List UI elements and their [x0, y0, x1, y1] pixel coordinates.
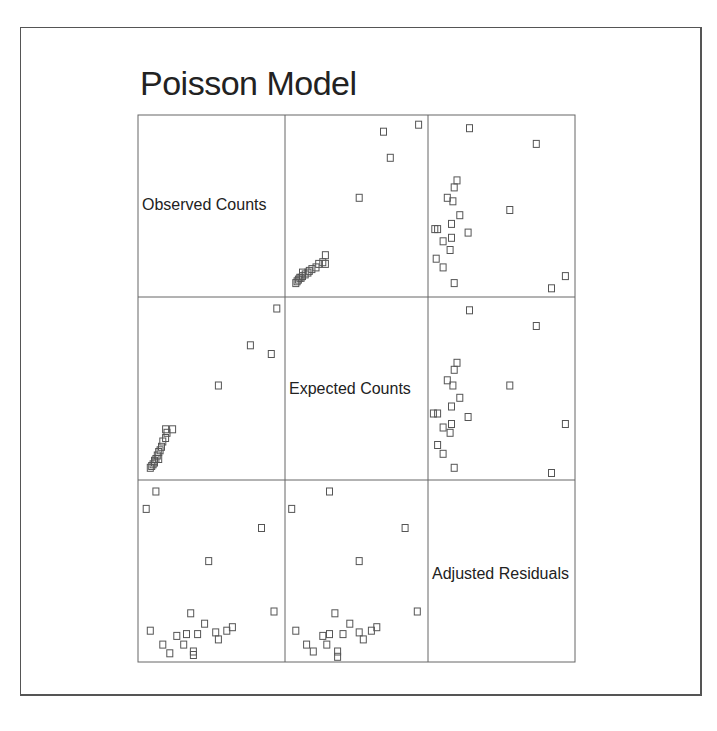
- data-point: [181, 641, 187, 648]
- data-point: [332, 610, 338, 617]
- data-point: [347, 620, 353, 627]
- data-point: [322, 252, 328, 259]
- data-point: [247, 342, 253, 349]
- data-point: [310, 648, 316, 655]
- data-point: [435, 410, 441, 417]
- data-point: [167, 650, 173, 657]
- data-point: [160, 641, 166, 648]
- data-point: [356, 194, 362, 201]
- data-point: [215, 382, 221, 389]
- data-point: [433, 255, 439, 262]
- data-point: [507, 207, 513, 214]
- data-point: [465, 414, 471, 421]
- scatterplot-matrix: [0, 0, 717, 731]
- data-point: [449, 403, 455, 410]
- data-point: [324, 641, 330, 648]
- data-point: [440, 450, 446, 457]
- data-point: [451, 184, 457, 191]
- data-point: [451, 464, 457, 471]
- data-point: [562, 421, 568, 428]
- data-point: [195, 631, 201, 638]
- data-point: [549, 285, 555, 292]
- data-point: [430, 410, 436, 417]
- data-point: [202, 620, 208, 627]
- data-point: [447, 247, 453, 254]
- data-point: [449, 220, 455, 227]
- data-point: [562, 273, 568, 280]
- data-point: [335, 648, 341, 655]
- data-point: [416, 121, 422, 128]
- data-point: [327, 631, 333, 638]
- data-point: [435, 442, 441, 449]
- data-point: [414, 608, 420, 615]
- data-point: [259, 525, 265, 532]
- data-point: [340, 631, 346, 638]
- data-point: [213, 629, 219, 636]
- data-point: [289, 505, 295, 512]
- data-point: [507, 382, 513, 389]
- data-point: [184, 631, 190, 638]
- data-point: [457, 212, 463, 219]
- data-point: [449, 421, 455, 428]
- data-point: [533, 140, 539, 147]
- diag-label-observed: Observed Counts: [142, 196, 267, 214]
- data-point: [440, 238, 446, 245]
- data-point: [447, 429, 453, 436]
- data-point: [293, 627, 299, 634]
- data-point: [320, 632, 326, 639]
- data-point: [402, 525, 408, 532]
- data-point: [274, 305, 280, 312]
- data-point: [387, 154, 393, 161]
- data-point: [215, 636, 221, 643]
- data-point: [467, 307, 473, 314]
- data-point: [440, 264, 446, 271]
- data-point: [360, 636, 366, 643]
- data-point: [451, 280, 457, 287]
- data-point: [147, 627, 153, 634]
- data-point: [327, 488, 333, 495]
- data-point: [268, 351, 274, 358]
- data-point: [451, 366, 457, 373]
- data-point: [356, 629, 362, 636]
- data-point: [271, 608, 277, 615]
- data-point: [440, 424, 446, 431]
- data-point: [467, 125, 473, 132]
- data-point: [174, 632, 180, 639]
- data-point: [356, 558, 362, 565]
- data-point: [465, 229, 471, 236]
- data-point: [143, 505, 149, 512]
- data-point: [454, 177, 460, 184]
- data-point: [206, 558, 212, 565]
- data-point: [549, 470, 555, 477]
- data-point: [381, 128, 387, 135]
- data-point: [457, 394, 463, 401]
- data-point: [304, 641, 310, 648]
- data-point: [153, 488, 159, 495]
- data-point: [188, 610, 194, 617]
- data-point: [335, 653, 341, 660]
- data-point: [449, 234, 455, 241]
- diag-label-expected: Expected Counts: [289, 380, 411, 398]
- diag-label-residuals: Adjusted Residuals: [432, 565, 569, 583]
- data-point: [454, 359, 460, 366]
- data-point: [533, 323, 539, 330]
